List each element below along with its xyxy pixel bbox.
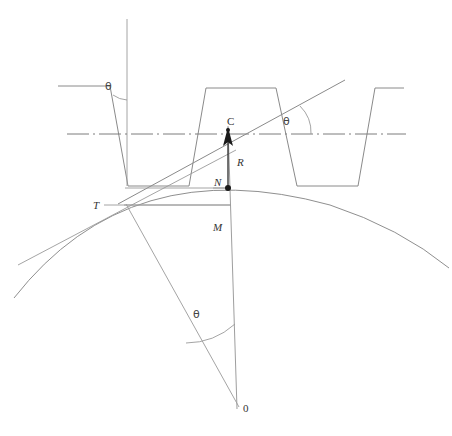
point-marker-C: [226, 128, 230, 132]
vertical-axis-to-origin: [228, 126, 237, 409]
diagram-canvas: θ θ C R N M T θ 0: [0, 0, 452, 436]
angle-arc-top-left: [113, 95, 127, 100]
label-radius-r: R: [236, 156, 244, 168]
label-origin: 0: [243, 402, 249, 414]
label-angle-center-bottom: θ: [193, 308, 200, 321]
angle-arc-center-bottom: [186, 324, 235, 343]
radius-dimension-arrow: [223, 127, 233, 188]
label-angle-pitch-right: θ: [283, 115, 290, 128]
label-point-m: M: [212, 221, 223, 233]
gear-geometry-figure: θ θ C R N M T θ 0: [0, 0, 452, 436]
label-point-c: C: [227, 115, 234, 127]
point-marker-N: [225, 185, 231, 191]
label-point-t: T: [93, 199, 100, 211]
tooth-left-flank: [58, 86, 189, 186]
tooth-middle: [189, 88, 358, 186]
label-angle-top-left: θ: [105, 80, 112, 93]
rack-tooth-profile: [58, 86, 404, 186]
label-point-n: N: [213, 176, 222, 188]
radius-line-origin-to-T: [126, 204, 239, 407]
tooth-right-flank: [358, 88, 404, 186]
angle-arc-pitch-right: [300, 106, 311, 134]
